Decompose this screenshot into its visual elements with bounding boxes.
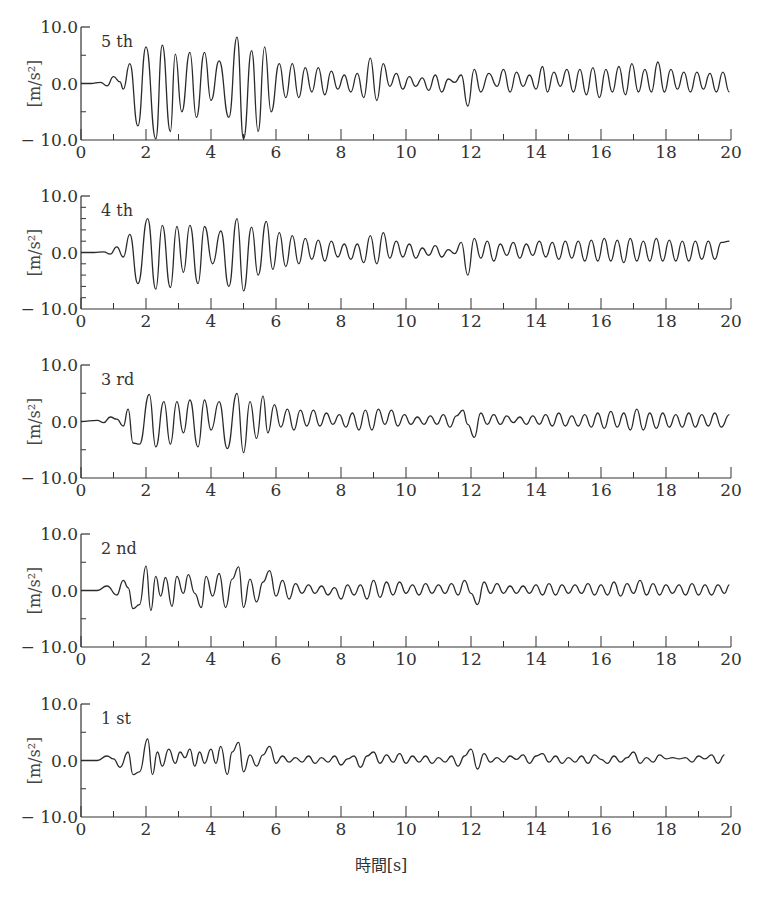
- y-axis-label: [m/s²]: [25, 60, 44, 108]
- y-tick-label: 10.0: [40, 17, 78, 37]
- x-tick-label: 18: [655, 311, 677, 331]
- panel-floor-label: 4 th: [101, 201, 133, 220]
- y-tick-label: 0.0: [51, 412, 78, 432]
- x-tick-label: 4: [206, 311, 217, 331]
- y-axis-label: [m/s²]: [25, 398, 44, 446]
- acceleration-time-history-figure: 0246810121416182010.00.0− 10.0[m/s²]5 th…: [0, 0, 762, 899]
- y-tick-label: 0.0: [51, 243, 78, 263]
- x-tick-label: 14: [525, 819, 547, 839]
- x-tick-label: 2: [141, 819, 152, 839]
- x-tick-label: 18: [655, 142, 677, 162]
- x-tick-label: 8: [336, 142, 347, 162]
- acceleration-trace: [81, 739, 725, 775]
- x-tick-label: 10: [395, 311, 417, 331]
- x-tick-label: 16: [590, 480, 612, 500]
- x-tick-label: 20: [720, 819, 742, 839]
- x-tick-label: 14: [525, 142, 547, 162]
- x-tick-label: 6: [271, 480, 282, 500]
- x-axis-label: 時間[s]: [0, 852, 762, 876]
- acceleration-trace: [81, 566, 729, 610]
- x-tick-label: 8: [336, 649, 347, 669]
- y-axis-label: [m/s²]: [25, 229, 44, 277]
- y-tick-label: 10.0: [40, 524, 78, 544]
- x-tick-label: 6: [271, 819, 282, 839]
- y-tick-label: 10.0: [40, 694, 78, 714]
- x-tick-label: 18: [655, 819, 677, 839]
- x-tick-label: 10: [395, 819, 417, 839]
- panel-floor-label: 1 st: [101, 709, 131, 728]
- x-tick-label: 14: [525, 480, 547, 500]
- x-tick-label: 4: [206, 819, 217, 839]
- x-tick-label: 18: [655, 649, 677, 669]
- x-tick-label: 4: [206, 142, 217, 162]
- x-tick-label: 16: [590, 311, 612, 331]
- x-tick-label: 12: [460, 649, 482, 669]
- x-tick-label: 14: [525, 649, 547, 669]
- x-tick-label: 20: [720, 142, 742, 162]
- x-tick-label: 2: [141, 142, 152, 162]
- y-axis-label: [m/s²]: [25, 737, 44, 785]
- y-tick-label: − 10.0: [21, 299, 79, 319]
- y-tick-label: 0.0: [51, 751, 78, 771]
- x-tick-label: 10: [395, 480, 417, 500]
- x-tick-label: 16: [590, 819, 612, 839]
- x-tick-label: 12: [460, 311, 482, 331]
- panel-2nd: 0246810121416182010.00.0− 10.0[m/s²]2 nd: [21, 524, 742, 669]
- x-tick-label: 4: [206, 649, 217, 669]
- panel-floor-label: 2 nd: [101, 539, 137, 558]
- acceleration-trace: [81, 37, 729, 139]
- x-tick-label: 20: [720, 480, 742, 500]
- x-tick-label: 10: [395, 142, 417, 162]
- y-tick-label: 0.0: [51, 74, 78, 94]
- x-tick-label: 12: [460, 819, 482, 839]
- x-tick-label: 16: [590, 649, 612, 669]
- y-tick-label: 10.0: [40, 355, 78, 375]
- x-tick-label: 12: [460, 142, 482, 162]
- x-tick-label: 6: [271, 649, 282, 669]
- panel-floor-label: 3 rd: [101, 370, 134, 389]
- panel-floor-label: 5 th: [101, 32, 133, 51]
- x-tick-label: 20: [720, 311, 742, 331]
- panel-3rd: 0246810121416182010.00.0− 10.0[m/s²]3 rd: [21, 355, 742, 500]
- x-tick-label: 8: [336, 819, 347, 839]
- acceleration-trace: [81, 219, 729, 291]
- x-tick-label: 6: [271, 142, 282, 162]
- x-tick-label: 2: [141, 311, 152, 331]
- x-tick-label: 18: [655, 480, 677, 500]
- y-axis-label: [m/s²]: [25, 567, 44, 615]
- y-tick-label: − 10.0: [21, 468, 79, 488]
- x-tick-label: 16: [590, 142, 612, 162]
- panel-4th: 0246810121416182010.00.0− 10.0[m/s²]4 th: [21, 186, 742, 331]
- y-tick-label: − 10.0: [21, 807, 79, 827]
- x-tick-label: 6: [271, 311, 282, 331]
- panel-1st: 0246810121416182010.00.0− 10.0[m/s²]1 st: [21, 694, 742, 839]
- x-tick-label: 10: [395, 649, 417, 669]
- y-tick-label: − 10.0: [21, 637, 79, 657]
- y-tick-label: 10.0: [40, 186, 78, 206]
- x-tick-label: 8: [336, 311, 347, 331]
- y-tick-label: − 10.0: [21, 130, 79, 150]
- x-tick-label: 2: [141, 649, 152, 669]
- x-tick-label: 2: [141, 480, 152, 500]
- y-tick-label: 0.0: [51, 581, 78, 601]
- panel-5th: 0246810121416182010.00.0− 10.0[m/s²]5 th: [21, 17, 742, 162]
- x-tick-label: 12: [460, 480, 482, 500]
- x-tick-label: 4: [206, 480, 217, 500]
- acceleration-trace: [81, 393, 729, 452]
- x-tick-label: 20: [720, 649, 742, 669]
- x-tick-label: 14: [525, 311, 547, 331]
- x-tick-label: 8: [336, 480, 347, 500]
